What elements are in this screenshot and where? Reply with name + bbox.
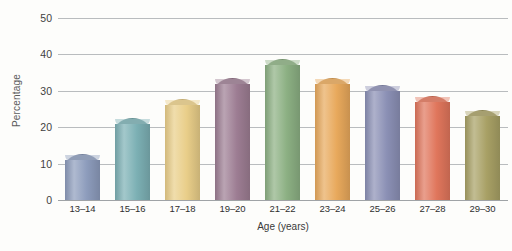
gridline-0 [58, 200, 508, 201]
bar[interactable] [315, 78, 350, 200]
x-tick-label: 29–30 [458, 203, 507, 214]
bar-body [215, 84, 250, 200]
bar[interactable] [215, 78, 250, 200]
x-axis-tick-labels: 13–1415–1617–1819–2021–2223–2425–2627–28… [58, 203, 508, 219]
bar[interactable] [365, 85, 400, 200]
bar-chart: Percentage 01020304050 13–1415–1617–1819… [0, 0, 512, 251]
bar[interactable] [65, 154, 100, 200]
bar-slot [308, 18, 357, 200]
bar-slot [408, 18, 457, 200]
x-tick-label: 25–26 [358, 203, 407, 214]
bar-series [58, 18, 508, 200]
x-tick-label: 27–28 [408, 203, 457, 214]
x-tick-label: 17–18 [158, 203, 207, 214]
y-tick-label: 0 [26, 194, 52, 206]
bar[interactable] [465, 110, 500, 200]
y-tick-label: 50 [26, 12, 52, 24]
x-tick-label: 15–16 [108, 203, 157, 214]
bar-body [265, 65, 300, 200]
bar-body [65, 160, 100, 200]
bar[interactable] [115, 118, 150, 200]
x-tick-label: 13–14 [58, 203, 107, 214]
bar-body [415, 102, 450, 200]
bar-slot [208, 18, 257, 200]
plot-area [58, 18, 508, 200]
y-axis-title: Percentage [6, 0, 28, 200]
y-tick-label: 40 [26, 48, 52, 60]
bar-slot [258, 18, 307, 200]
bar[interactable] [415, 96, 450, 200]
bar-slot [458, 18, 507, 200]
bar-body [165, 105, 200, 200]
bar-body [315, 84, 350, 200]
x-axis-title: Age (years) [58, 221, 508, 232]
bar[interactable] [265, 59, 300, 200]
bar-slot [358, 18, 407, 200]
bar-slot [108, 18, 157, 200]
x-tick-label: 21–22 [258, 203, 307, 214]
bar-slot [58, 18, 107, 200]
y-axis-title-label: Percentage [12, 73, 23, 126]
bar[interactable] [165, 99, 200, 200]
y-tick-label: 20 [26, 121, 52, 133]
bar-body [115, 124, 150, 200]
bar-slot [158, 18, 207, 200]
x-tick-label: 23–24 [308, 203, 357, 214]
y-tick-label: 10 [26, 158, 52, 170]
bar-body [465, 116, 500, 200]
x-tick-label: 19–20 [208, 203, 257, 214]
y-tick-label: 30 [26, 85, 52, 97]
bar-body [365, 91, 400, 200]
